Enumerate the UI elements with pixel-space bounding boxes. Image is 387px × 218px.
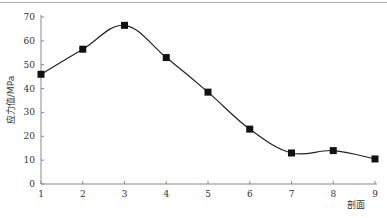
data-point-marker: [246, 126, 253, 133]
x-axis-label: 剖面: [347, 199, 365, 210]
data-point-marker: [205, 89, 212, 96]
y-tick-label: 40: [24, 84, 36, 94]
x-tick-label: 5: [205, 189, 211, 199]
axes: [41, 15, 377, 184]
x-tick-label: 6: [247, 189, 253, 199]
y-axis-label: 应力值/MPa: [5, 76, 16, 124]
x-tick-label: 8: [330, 189, 336, 199]
data-point-marker: [372, 155, 379, 162]
y-tick-label: 30: [24, 107, 36, 117]
data-point-marker: [163, 54, 170, 61]
data-point-marker: [38, 71, 45, 78]
data-point-marker: [330, 147, 337, 154]
x-tick-label: 9: [372, 189, 378, 199]
data-point-marker: [121, 22, 128, 29]
y-tick-label: 10: [24, 155, 36, 165]
series-markers: [38, 22, 379, 163]
y-tick-label: 70: [24, 12, 36, 22]
data-point-marker: [288, 149, 295, 156]
x-tick-label: 1: [38, 189, 44, 199]
y-tick-label: 20: [24, 131, 36, 141]
x-tick-label: 2: [80, 189, 86, 199]
y-tick-label: 50: [24, 60, 36, 70]
data-point-marker: [79, 46, 86, 53]
y-tick-label: 60: [24, 36, 36, 46]
y-tick-label: 0: [29, 179, 35, 189]
x-tick-label: 4: [163, 189, 169, 199]
line-chart: 010203040506070 123456789 应力值/MPa 剖面: [0, 0, 387, 218]
x-tick-label: 3: [122, 189, 128, 199]
x-tick-label: 7: [289, 189, 295, 199]
